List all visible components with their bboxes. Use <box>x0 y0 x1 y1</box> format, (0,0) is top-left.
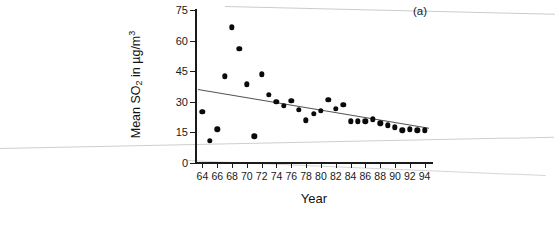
x-axis-tick-label: 82 <box>330 170 342 182</box>
x-axis-tick-label: 84 <box>345 170 357 182</box>
y-axis-title-prefix: Mean SO <box>129 85 143 138</box>
x-axis-tick <box>365 163 366 168</box>
x-axis-tick-label: 70 <box>241 170 253 182</box>
x-axis-tick <box>395 163 396 168</box>
x-axis-tick <box>425 163 426 168</box>
x-axis-tick-label: 90 <box>389 170 401 182</box>
x-axis-tick-label: 78 <box>300 170 312 182</box>
x-axis-tick <box>276 163 277 168</box>
x-axis-tick-label: 94 <box>419 170 431 182</box>
x-axis-title: Year <box>195 191 433 206</box>
x-axis-tick <box>410 163 411 168</box>
x-axis-tick-label: 74 <box>271 170 283 182</box>
x-axis-tick <box>321 163 322 168</box>
y-axis-title-text: Mean SO2 in µg/m3 <box>127 10 144 160</box>
x-axis-tick <box>380 163 381 168</box>
x-axis-tick-label: 68 <box>226 170 238 182</box>
x-axis-tick <box>247 163 248 168</box>
y-axis-tick-label: 45 <box>176 65 188 77</box>
x-axis-tick-label: 80 <box>315 170 327 182</box>
x-axis-tick <box>262 163 263 168</box>
y-axis-tick-label: 0 <box>182 157 188 169</box>
x-axis-tick-label: 92 <box>404 170 416 182</box>
x-axis-tick-label: 66 <box>211 170 223 182</box>
plot-area: 0153045607564666870727476788082848688909… <box>195 10 432 163</box>
x-axis-tick <box>291 163 292 168</box>
y-axis-tick <box>190 71 195 72</box>
x-axis-tick <box>306 163 307 168</box>
x-axis-tick-label: 86 <box>360 170 372 182</box>
y-axis-tick <box>190 163 195 164</box>
y-axis-tick <box>190 41 195 42</box>
x-axis-tick-label: 88 <box>374 170 386 182</box>
y-axis-tick-label: 30 <box>176 96 188 108</box>
x-axis-tick <box>202 163 203 168</box>
x-axis-tick <box>217 163 218 168</box>
y-axis-tick <box>190 102 195 103</box>
y-axis-tick <box>190 132 195 133</box>
x-axis-tick-label: 64 <box>197 170 209 182</box>
x-axis-tick <box>232 163 233 168</box>
y-axis-title: Mean SO2 in µg/m3 <box>124 12 146 162</box>
y-axis-tick-label: 75 <box>176 4 188 16</box>
y-axis-tick <box>190 10 195 11</box>
y-axis-title-superscript: 3 <box>127 31 137 36</box>
x-axis-tick <box>351 163 352 168</box>
x-axis-tick <box>336 163 337 168</box>
x-axis-tick-label: 76 <box>285 170 297 182</box>
y-axis-title-mid: in µg/m <box>129 36 143 81</box>
y-axis-title-subscript: 2 <box>134 80 144 85</box>
regression-trendline <box>195 10 432 163</box>
y-axis-tick-label: 15 <box>176 126 188 138</box>
x-axis-tick-label: 72 <box>256 170 268 182</box>
y-axis-tick-label: 60 <box>176 35 188 47</box>
